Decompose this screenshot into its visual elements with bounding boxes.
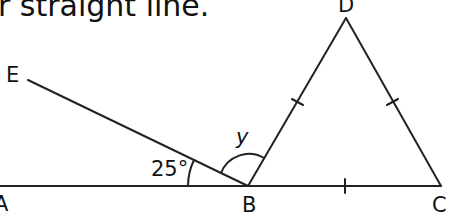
label-b: B (242, 194, 256, 216)
label-c: C (432, 194, 447, 216)
label-a: A (0, 193, 8, 215)
label-e: E (6, 64, 19, 86)
angle-y-label: y (236, 126, 248, 148)
line-be (28, 80, 248, 186)
label-d: D (338, 0, 354, 16)
arc-25 (188, 160, 194, 186)
angle-25-label: 25° (151, 158, 188, 180)
geometry-diagram (0, 0, 451, 220)
